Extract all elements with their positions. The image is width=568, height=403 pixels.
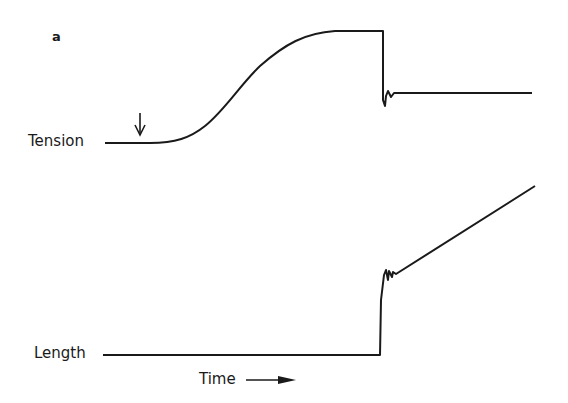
tension-trace [105, 31, 532, 143]
stimulus-down-arrow-icon [135, 113, 145, 135]
time-right-arrow-icon [246, 376, 296, 384]
trace-plot [0, 0, 568, 403]
length-trace [103, 186, 535, 355]
